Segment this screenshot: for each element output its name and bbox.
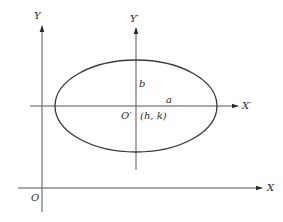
new-origin-label: O′ xyxy=(121,111,131,121)
semi-minor-label: b xyxy=(139,79,145,89)
y-axis-label: Y xyxy=(34,11,41,21)
ellipse-translation-diagram: Y Y′ X′ X O O′ (h, k) a b xyxy=(0,0,283,222)
y-prime-axis-label: Y′ xyxy=(130,14,139,24)
semi-major-label: a xyxy=(166,95,172,105)
origin-label: O xyxy=(31,193,39,203)
x-prime-axis-label: X′ xyxy=(242,101,251,111)
center-coords-label: (h, k) xyxy=(140,111,167,121)
x-axis-label: X xyxy=(267,183,274,193)
